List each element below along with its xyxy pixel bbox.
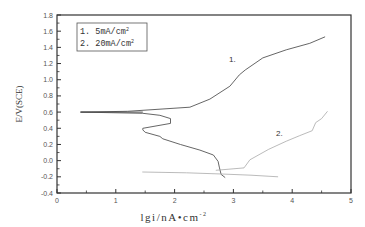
y-tick-label: 0.0 — [43, 157, 53, 164]
x-tick-label: 2 — [173, 197, 177, 204]
y-tick-label: 1.2 — [43, 60, 53, 67]
y-tick-label: -0.4 — [41, 190, 53, 197]
curves — [81, 37, 328, 178]
y-tick-label: 0.4 — [43, 125, 53, 132]
x-axis-title: lgi/nA•cm-2 — [141, 211, 208, 223]
x-tick-label: 3 — [231, 197, 235, 204]
y-tick-label: 0.6 — [43, 109, 53, 116]
y-tick-label: 1.4 — [43, 44, 53, 51]
x-tick-label: 5 — [349, 197, 353, 204]
x-tick-label: 4 — [290, 197, 294, 204]
legend-entry-2: 2. 20mA/cm2 — [80, 39, 134, 49]
x-axis-ticks: 012345 — [55, 189, 353, 204]
y-tick-label: -0.2 — [41, 173, 53, 180]
y-axis-title: E/V(SCE) — [14, 85, 24, 122]
y-tick-label: 1.8 — [43, 12, 53, 19]
x-tick-label: 1 — [114, 197, 118, 204]
legend-entry-1: 1. 5mA/cm2 — [80, 27, 129, 37]
legend: 1. 5mA/cm2 2. 20mA/cm2 — [77, 23, 147, 51]
curve-2-anodic — [216, 111, 328, 170]
y-axis-ticks: -0.4-0.20.00.20.40.60.81.01.21.41.61.8 — [41, 12, 61, 197]
y-tick-label: 0.2 — [43, 141, 53, 148]
y-tick-label: 1.6 — [43, 28, 53, 35]
x-tick-label: 0 — [55, 197, 59, 204]
y-tick-label: 1.0 — [43, 76, 53, 83]
y-tick-label: 0.8 — [43, 92, 53, 99]
curve-2 — [142, 172, 278, 177]
polarization-chart: -0.4-0.20.00.20.40.60.81.01.21.41.61.8 0… — [0, 0, 365, 227]
curve-1 — [81, 37, 326, 178]
curve-2-label: 2. — [276, 129, 283, 138]
curve-1-label: 1. — [229, 55, 236, 64]
